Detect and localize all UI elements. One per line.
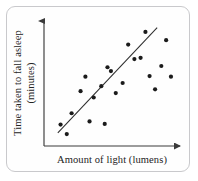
data-point <box>114 91 118 95</box>
data-point <box>78 89 82 93</box>
data-point <box>147 74 151 78</box>
data-points-group <box>58 30 173 136</box>
data-point <box>92 95 96 99</box>
plot-axes <box>44 21 180 146</box>
data-point <box>105 65 109 69</box>
data-point <box>109 69 113 73</box>
data-point <box>143 30 147 34</box>
x-axis-label: Amount of light (lumens) <box>57 154 167 166</box>
data-point <box>65 132 69 136</box>
y-axis-label-line2: (minutes) <box>25 62 37 104</box>
data-point <box>132 57 136 61</box>
data-point <box>87 119 91 123</box>
data-point <box>58 122 62 126</box>
trend-line <box>58 28 157 133</box>
data-point <box>169 75 173 79</box>
data-point <box>99 84 103 88</box>
data-point <box>70 111 74 115</box>
data-point <box>83 75 87 79</box>
trend-line-group <box>58 28 157 133</box>
chart-canvas: Amount of light (lumens) Time taken to f… <box>0 0 198 181</box>
y-axis-label-group: Time taken to fall asleep (minutes) <box>12 30 37 136</box>
scatter-plot-figure: Amount of light (lumens) Time taken to f… <box>0 0 198 181</box>
data-point <box>139 56 143 60</box>
data-point <box>164 38 168 42</box>
data-point <box>126 42 130 46</box>
y-axis-label-line1: Time taken to fall asleep <box>12 30 23 136</box>
data-point <box>159 64 163 68</box>
data-point <box>121 81 125 85</box>
data-point <box>153 87 157 91</box>
x-axis-label-group: Amount of light (lumens) <box>57 154 167 166</box>
data-point <box>103 122 107 126</box>
